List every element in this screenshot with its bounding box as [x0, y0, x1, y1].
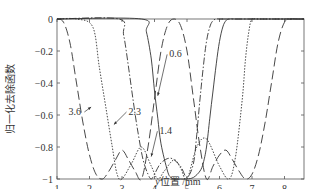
series-line-2-3	[57, 18, 304, 180]
plot-frame	[57, 19, 304, 179]
y-axis-label: 归一化去除函数	[4, 64, 16, 134]
y-tick-label: −0.4	[35, 78, 53, 89]
series-layer	[57, 18, 304, 180]
x-axis: 12345678	[55, 19, 288, 189]
plot-border	[57, 19, 304, 179]
annotation-2-3: 2.3	[129, 106, 142, 117]
x-tick-label: 6	[217, 183, 222, 189]
x-tick-label: 8	[282, 183, 287, 189]
y-tick-label: 0	[48, 14, 53, 25]
annotation-arrow	[151, 131, 157, 156]
series-line-0-6	[57, 18, 304, 179]
y-tick-label: −0.6	[35, 110, 53, 121]
annotation-0-6: 0.6	[169, 48, 182, 59]
annotation-layer: 0.61.42.33.6	[68, 48, 181, 156]
x-axis-label: y位置 /mm	[154, 175, 201, 187]
annotation-3-6: 3.6	[68, 106, 81, 117]
x-tick-label: 3	[120, 183, 125, 189]
x-tick-label: 7	[250, 183, 255, 189]
series-line-1-4	[57, 18, 304, 179]
removal-function-chart: 0−0.2−0.4−0.6−0.8−1 12345678 0.61.42.33.…	[0, 0, 319, 189]
y-tick-label: −1	[42, 174, 53, 185]
series-line-3-6	[57, 19, 304, 180]
y-tick-label: −0.8	[35, 142, 53, 153]
y-tick-label: −0.2	[35, 46, 53, 57]
annotation-1-4: 1.4	[159, 125, 172, 136]
y-axis: 0−0.2−0.4−0.6−0.8−1	[35, 14, 304, 185]
x-axis-label-text: 位置 /mm	[160, 175, 201, 187]
x-tick-label: 1	[55, 183, 60, 189]
x-tick-label: 2	[87, 183, 92, 189]
